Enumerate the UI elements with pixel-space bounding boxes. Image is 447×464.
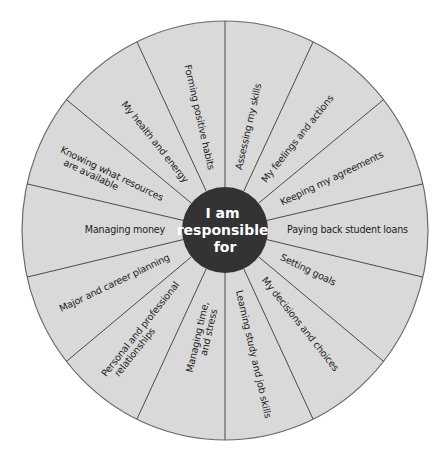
segment-label-managing-money: Managing money (85, 224, 166, 235)
responsibility-wheel: Assessing my skills My feelings and acti… (0, 0, 447, 464)
segment-label-paying-back-student-loans: Paying back student loans (287, 224, 408, 235)
